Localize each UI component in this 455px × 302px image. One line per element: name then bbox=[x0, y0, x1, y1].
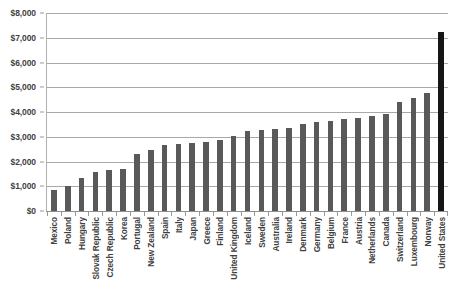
bar bbox=[51, 190, 57, 211]
y-tick-mark bbox=[40, 87, 44, 88]
x-tick-label: Austria bbox=[354, 217, 364, 245]
x-tick-mark bbox=[75, 212, 76, 216]
x-tick-mark bbox=[310, 212, 311, 216]
y-tick-label: $7,000 bbox=[11, 33, 36, 43]
x-tick-mark bbox=[420, 212, 421, 216]
x-tick-mark bbox=[171, 212, 172, 216]
bar bbox=[411, 98, 417, 211]
x-tick-mark bbox=[407, 212, 408, 216]
x-tick-label: Mexico bbox=[49, 217, 59, 245]
bar-chart: $0$1,000$2,000$3,000$4,000$5,000$6,000$7… bbox=[0, 0, 455, 302]
x-tick-label: Denmark bbox=[298, 217, 308, 252]
x-tick-label: Poland bbox=[63, 217, 73, 244]
bar bbox=[189, 143, 195, 211]
x-tick-label: Luxembourg bbox=[409, 217, 419, 266]
x-tick-label: Ireland bbox=[284, 217, 294, 244]
x-tick-mark bbox=[130, 212, 131, 216]
x-tick-mark bbox=[447, 212, 448, 216]
x-tick-label: Japan bbox=[188, 217, 198, 240]
bar bbox=[65, 186, 71, 211]
x-tick-mark bbox=[393, 212, 394, 216]
x-tick-mark bbox=[282, 212, 283, 216]
y-tick-mark bbox=[40, 37, 44, 38]
x-tick-label: Belgium bbox=[326, 217, 336, 249]
y-axis: $0$1,000$2,000$3,000$4,000$5,000$6,000$7… bbox=[0, 0, 44, 302]
x-tick-mark bbox=[351, 212, 352, 216]
x-tick-label: France bbox=[340, 217, 350, 244]
bar bbox=[397, 102, 403, 211]
bar bbox=[231, 136, 237, 211]
x-tick-mark bbox=[434, 212, 435, 216]
x-tick-label: Australia bbox=[271, 217, 281, 252]
bar bbox=[369, 116, 375, 211]
y-tick-label: $1,000 bbox=[11, 181, 36, 191]
y-tick-mark bbox=[40, 186, 44, 187]
bar bbox=[176, 144, 182, 211]
bar bbox=[245, 131, 251, 211]
x-tick-label: New Zealand bbox=[146, 217, 156, 267]
x-tick-mark bbox=[241, 212, 242, 216]
y-tick-mark bbox=[40, 112, 44, 113]
x-tick-label: Sweden bbox=[257, 217, 267, 248]
bar bbox=[162, 145, 168, 211]
bar bbox=[134, 154, 140, 211]
x-tick-mark bbox=[61, 212, 62, 216]
x-tick-mark bbox=[185, 212, 186, 216]
x-tick-mark bbox=[116, 212, 117, 216]
bar bbox=[272, 129, 278, 211]
x-tick-label: Germany bbox=[312, 217, 322, 252]
x-tick-mark bbox=[337, 212, 338, 216]
x-axis-ticks bbox=[47, 212, 448, 216]
x-tick-label: Slovak Republic bbox=[91, 217, 101, 280]
x-tick-label: Canada bbox=[381, 217, 391, 246]
y-tick-mark bbox=[40, 211, 44, 212]
x-tick-label: Italy bbox=[174, 217, 184, 233]
y-tick-mark bbox=[40, 136, 44, 137]
bar bbox=[383, 114, 389, 211]
bar bbox=[341, 119, 347, 211]
y-tick-label: $8,000 bbox=[11, 8, 36, 18]
bar bbox=[424, 93, 430, 211]
x-tick-mark bbox=[379, 212, 380, 216]
x-tick-label: Portugal bbox=[132, 217, 142, 250]
y-tick-label: $6,000 bbox=[11, 58, 36, 68]
x-tick-mark bbox=[365, 212, 366, 216]
bar bbox=[355, 118, 361, 211]
bar bbox=[203, 142, 209, 211]
x-tick-mark bbox=[324, 212, 325, 216]
x-tick-label: Greece bbox=[202, 217, 212, 245]
bars-layer bbox=[47, 13, 448, 211]
x-tick-mark bbox=[88, 212, 89, 216]
x-tick-label: Korea bbox=[119, 217, 129, 240]
bar bbox=[328, 121, 334, 211]
x-axis-labels: MexicoPolandHungarySlovak RepublicCzech … bbox=[47, 217, 448, 302]
y-tick-mark bbox=[40, 62, 44, 63]
x-tick-label: Czech Republic bbox=[105, 217, 115, 277]
y-tick-label: $3,000 bbox=[11, 132, 36, 142]
x-tick-label: Hungary bbox=[77, 217, 87, 250]
x-tick-mark bbox=[296, 212, 297, 216]
bar bbox=[286, 128, 292, 211]
x-tick-label: Norway bbox=[423, 217, 433, 246]
bar bbox=[106, 170, 112, 211]
bar bbox=[217, 140, 223, 211]
x-tick-label: Switzerland bbox=[395, 217, 405, 262]
x-tick-label: United Kingdom bbox=[229, 217, 239, 280]
bar bbox=[148, 150, 154, 211]
bar bbox=[120, 169, 126, 211]
bar bbox=[314, 122, 320, 211]
x-tick-mark bbox=[227, 212, 228, 216]
y-tick-label: $2,000 bbox=[11, 157, 36, 167]
x-tick-label: Finland bbox=[215, 217, 225, 246]
x-tick-label: Spain bbox=[160, 217, 170, 239]
x-tick-mark bbox=[254, 212, 255, 216]
bar bbox=[79, 178, 85, 211]
bar bbox=[259, 130, 265, 211]
x-tick-label: Iceland bbox=[243, 217, 253, 245]
bar bbox=[93, 172, 99, 211]
x-tick-mark bbox=[213, 212, 214, 216]
x-tick-mark bbox=[102, 212, 103, 216]
x-tick-label: Netherlands bbox=[367, 217, 377, 264]
bar bbox=[438, 32, 444, 211]
x-tick-mark bbox=[199, 212, 200, 216]
